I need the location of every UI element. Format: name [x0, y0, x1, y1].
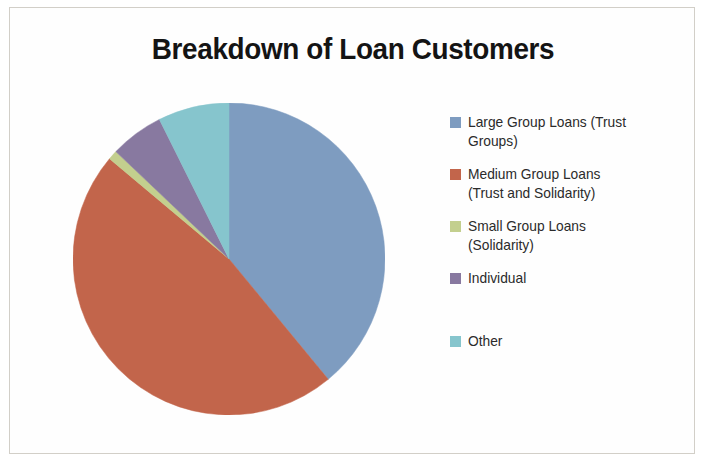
- legend-swatch-individual: [450, 273, 461, 284]
- legend-item[interactable]: Large Group Loans (Trust Groups): [450, 113, 690, 151]
- chart-title: Breakdown of Loan Customers: [25, 32, 682, 66]
- chart-screenshot: Breakdown of Loan Customers Large Group …: [0, 0, 706, 465]
- legend-swatch-other: [450, 336, 461, 347]
- pie-chart-figure: Breakdown of Loan Customers Large Group …: [0, 0, 706, 465]
- legend-item[interactable]: Other: [450, 332, 690, 351]
- legend-item-label: Large Group Loans (Trust Groups): [468, 113, 626, 151]
- legend-item[interactable]: Small Group Loans (Solidarity): [450, 217, 690, 255]
- legend-swatch-large-group-loans: [450, 117, 461, 128]
- pie-svg: [73, 103, 385, 415]
- legend-item[interactable]: Individual: [450, 269, 690, 288]
- legend-item-label: Individual: [468, 269, 526, 288]
- legend-swatch-small-group-loans: [450, 221, 461, 232]
- legend-swatch-medium-group-loans: [450, 169, 461, 180]
- legend-item[interactable]: Medium Group Loans (Trust and Solidarity…: [450, 165, 690, 203]
- pie-chart-graphic: [73, 103, 385, 415]
- chart-legend: Large Group Loans (Trust Groups)Medium G…: [450, 113, 690, 365]
- legend-item-label: Other: [468, 332, 502, 351]
- legend-item-label: Small Group Loans (Solidarity): [468, 217, 586, 255]
- legend-item-label: Medium Group Loans (Trust and Solidarity…: [468, 165, 600, 203]
